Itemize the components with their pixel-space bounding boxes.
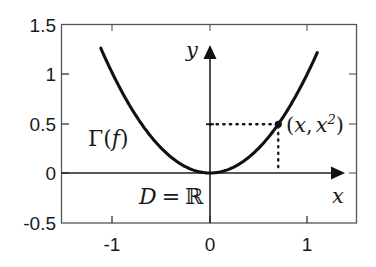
graph-label-f: f — [112, 126, 120, 151]
domain-reals-symbol: ℝ — [185, 184, 203, 209]
parabola-path-helper — [100, 50, 210, 173]
point-paren-close: ) — [336, 113, 344, 137]
y-tick-label-0-5: 0.5 — [8, 115, 56, 134]
gamma-symbol: Γ — [88, 126, 103, 151]
point-exponent: 2 — [328, 112, 336, 127]
y-axis-arrowhead-icon — [204, 45, 217, 59]
x-tick-label-0: 0 — [205, 235, 216, 254]
y-axis-ticks — [62, 74, 70, 173]
point-x-first: x — [294, 113, 306, 137]
x-axis-arrowhead-icon — [331, 167, 345, 180]
figure-parabola-graph: 1.5 1 0.5 0 -0.5 -1 0 1 y x Γ(f) D=ℝ (x,… — [0, 0, 376, 267]
domain-equals-symbol: = — [157, 184, 185, 209]
point-comma: , — [306, 113, 316, 137]
y-axis-ticks-right — [349, 74, 357, 173]
y-tick-label-1: 1 — [8, 65, 56, 84]
domain-d-symbol: D — [139, 184, 157, 209]
point-paren-open: ( — [286, 113, 294, 137]
point-coordinate-label: (x,x2) — [286, 113, 344, 136]
x-axis-ticks-top — [112, 25, 307, 32]
y-tick-label-0: 0 — [8, 164, 56, 183]
y-tick-label-neg0-5: -0.5 — [2, 214, 56, 233]
point-x-second: x — [316, 113, 328, 137]
point-marker-dot — [275, 121, 282, 128]
y-tick-label-1-5: 1.5 — [8, 16, 56, 35]
x-axis-label: x — [332, 186, 344, 207]
graph-label-paren-open: ( — [103, 126, 112, 151]
y-axis-label: y — [186, 40, 198, 61]
graph-label-paren-close: ) — [120, 126, 129, 151]
domain-label: D=ℝ — [139, 186, 203, 208]
parabola-curve — [101, 48, 317, 173]
x-tick-label-neg1: -1 — [104, 235, 121, 254]
x-tick-label-1: 1 — [302, 235, 313, 254]
graph-of-f-label: Γ(f) — [88, 128, 129, 150]
